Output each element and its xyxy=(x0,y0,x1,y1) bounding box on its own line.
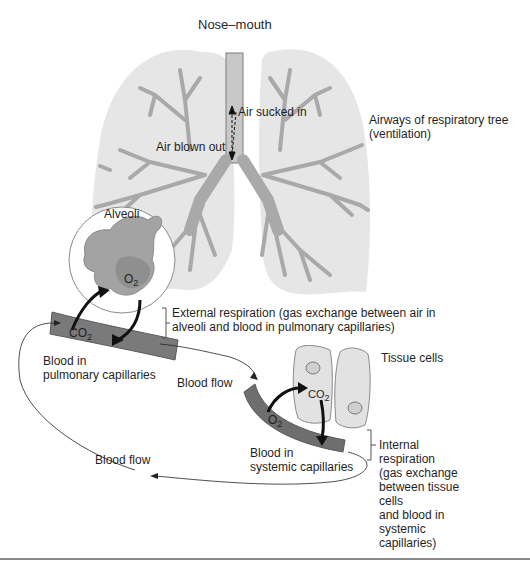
o2-alveoli-label: O2 xyxy=(124,272,138,290)
nose-mouth-label: Nose–mouth xyxy=(198,18,272,32)
internal-line: systemic xyxy=(379,522,459,536)
internal-line: cells xyxy=(379,494,459,508)
blood-systemic-line1: Blood in xyxy=(250,446,293,460)
tissue-cells-label: Tissue cells xyxy=(381,351,443,365)
blood-pulmonary-line1: Blood in xyxy=(43,354,86,368)
internal-line: (gas exchange xyxy=(379,466,459,480)
external-respiration-line1: External respiration (gas exchange betwe… xyxy=(172,306,435,320)
blood-pulmonary-line2: pulmonary capillaries xyxy=(43,368,156,382)
internal-line: Internal xyxy=(379,438,459,452)
co2-pulmonary-label: CO2 xyxy=(69,326,92,344)
airways-label-line2: (ventilation) xyxy=(369,127,431,141)
respiration-diagram: Nose–mouth Air sucked in Air blown out A… xyxy=(0,0,530,568)
internal-line: between tissue xyxy=(379,480,459,494)
airways-label-line1: Airways of respiratory tree xyxy=(369,113,508,127)
internal-line: capillaries) xyxy=(379,536,459,550)
air-blown-out-label: Air blown out xyxy=(156,140,225,154)
o2-systemic-label: O2 xyxy=(268,413,282,431)
co2-tissue-label: CO2 xyxy=(308,387,330,405)
external-respiration-line2: alveoli and blood in pulmonary capillari… xyxy=(172,320,395,334)
internal-line: respiration xyxy=(379,452,459,466)
alveoli-inset xyxy=(69,207,175,313)
air-sucked-in-label: Air sucked in xyxy=(238,105,307,119)
internal-line: and blood in xyxy=(379,508,459,522)
blood-systemic-line2: systemic capillaries xyxy=(250,460,353,474)
blood-flow-lower-label: Blood flow xyxy=(95,453,150,467)
bottom-divider xyxy=(0,558,530,560)
internal-respiration-label: Internal respiration (gas exchange betwe… xyxy=(379,438,459,550)
blood-flow-upper-label: Blood flow xyxy=(177,376,232,390)
alveoli-label: Alveoli xyxy=(104,207,139,221)
